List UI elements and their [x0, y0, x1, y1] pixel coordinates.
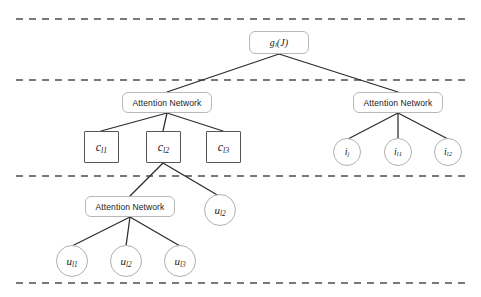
- node-c-l3[interactable]: cl3: [206, 131, 241, 163]
- node-c-l1-label: cl1: [96, 141, 107, 153]
- diagram-canvas: gl(J) Attention Network Attention Networ…: [0, 0, 481, 297]
- node-u-l2-side[interactable]: ul2: [204, 194, 236, 226]
- edge-attention-right-to-i-j: [348, 113, 398, 139]
- node-attention-network-right[interactable]: Attention Network: [353, 92, 443, 113]
- node-u-l2-bottom-label: ul2: [120, 256, 131, 267]
- node-attention-network-bottom-label: Attention Network: [96, 202, 165, 212]
- node-attention-network-left[interactable]: Attention Network: [122, 92, 212, 113]
- node-u-l2-side-label: ul2: [214, 205, 225, 216]
- edge-attention-left-to-c-l1: [101, 113, 167, 131]
- edge-root-to-attention-left: [167, 54, 279, 92]
- node-i-j-label: ij: [345, 147, 350, 157]
- node-c-l2[interactable]: cl2: [146, 131, 181, 163]
- node-c-l2-label: cl2: [158, 141, 169, 153]
- node-attention-network-bottom[interactable]: Attention Network: [85, 196, 175, 217]
- node-i-l1[interactable]: il1: [384, 138, 412, 166]
- edge-attention-left-to-c-l3: [167, 113, 223, 131]
- node-i-j[interactable]: ij: [333, 138, 361, 166]
- node-u-l1-label: ul1: [66, 256, 77, 267]
- node-i-l2[interactable]: il2: [434, 138, 462, 166]
- edge-c-l2-to-u-l2-side: [163, 163, 219, 196]
- node-u-l1[interactable]: ul1: [56, 245, 88, 277]
- node-i-l2-label: il2: [444, 147, 452, 157]
- node-attention-network-left-label: Attention Network: [133, 98, 202, 108]
- edge-attention-bottom-to-u-l1: [72, 217, 130, 246]
- node-attention-network-right-label: Attention Network: [364, 98, 433, 108]
- node-u-l2-bottom[interactable]: ul2: [110, 245, 142, 277]
- edge-root-to-attention-right: [279, 54, 398, 92]
- node-u-l3-label: ul3: [174, 256, 185, 267]
- edge-attention-left-to-c-l2: [163, 113, 167, 131]
- node-i-l1-label: il1: [394, 147, 402, 157]
- node-c-l1[interactable]: cl1: [84, 131, 119, 163]
- node-u-l3[interactable]: ul3: [164, 245, 196, 277]
- node-root-label: gl(J): [270, 38, 288, 48]
- node-c-l3-label: cl3: [218, 141, 229, 153]
- edge-attention-bottom-to-u-l2: [126, 217, 130, 246]
- edge-attention-right-to-i-l2: [398, 113, 448, 139]
- edge-c-l2-to-attention-bottom: [130, 163, 163, 196]
- node-root-g[interactable]: gl(J): [249, 31, 309, 54]
- edge-attention-bottom-to-u-l3: [130, 217, 180, 246]
